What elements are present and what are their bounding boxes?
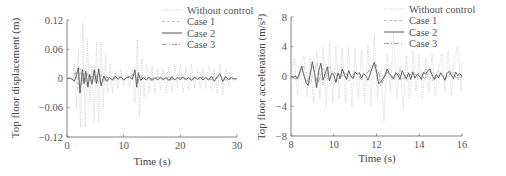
- y-tick-label: 0: [58, 73, 63, 84]
- y-tick-label: 0.06: [45, 44, 63, 55]
- y-tick-label: −0.06: [39, 102, 63, 113]
- legend-label: Case 2: [187, 28, 215, 39]
- x-tick-label: 30: [232, 140, 243, 151]
- x-tick-label: 10: [329, 139, 340, 150]
- x-tick-label: 8: [288, 139, 293, 150]
- legend: Without controlCase 1Case 2Case 3: [162, 5, 253, 51]
- y-tick-label: 4: [282, 41, 288, 52]
- x-tick-label: 20: [175, 140, 186, 151]
- x-axis-title: Time (s): [133, 155, 171, 168]
- legend: Without controlCase 1Case 2Case 3: [384, 4, 475, 50]
- y-tick-label: −8: [276, 131, 287, 142]
- legend-label: Case 2: [409, 27, 437, 38]
- legend-label: Case 1: [187, 16, 215, 27]
- displacement-chart: 01020300.120.060−0.06−0.12 Time (s) Top …: [9, 5, 253, 169]
- y-tick-label: 8: [282, 12, 287, 23]
- y-tick-label: −4: [276, 101, 288, 112]
- y-axis-title: Top floor displacement (m): [9, 17, 22, 138]
- acceleration-chart: 810121416840−4−8 Time (s) Top floor acce…: [255, 4, 475, 166]
- legend-label: Case 1: [409, 15, 437, 26]
- legend-label: Without control: [187, 5, 253, 16]
- legend-label: Without control: [409, 4, 475, 15]
- y-tick-label: −0.12: [39, 132, 63, 143]
- y-tick-label: 0.12: [45, 15, 63, 26]
- x-axis-title: Time (s): [358, 152, 396, 165]
- y-tick-label: 0: [282, 71, 287, 82]
- legend-label: Case 3: [409, 38, 437, 49]
- figure-two-charts: 01020300.120.060−0.06−0.12 Time (s) Top …: [0, 0, 506, 176]
- x-tick-label: 14: [414, 139, 425, 150]
- x-tick-label: 16: [457, 139, 468, 150]
- legend-label: Case 3: [187, 39, 215, 50]
- x-tick-label: 10: [118, 140, 129, 151]
- x-tick-label: 0: [64, 140, 69, 151]
- x-tick-label: 12: [371, 139, 382, 150]
- axis-ticks: 810121416840−4−8: [276, 12, 467, 151]
- y-axis-title: Top floor acceleration (m/s²): [255, 14, 268, 141]
